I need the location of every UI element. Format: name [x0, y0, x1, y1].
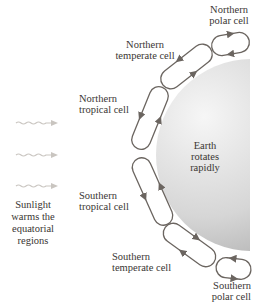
label-line: Northern — [110, 39, 180, 50]
southern-tropical-cell-label: Southern tropical cell — [79, 190, 129, 212]
northern-polar-cell-loop — [210, 31, 251, 57]
sunlight-arrow-icon — [16, 154, 52, 156]
sunlight-arrow-icon — [16, 122, 52, 124]
label-line: tropical cell — [79, 201, 129, 212]
southern-polar-cell-loop — [215, 257, 252, 281]
label-line: Southern — [112, 251, 171, 262]
label-line: Sunlight — [2, 199, 64, 211]
label-line: rotates — [180, 151, 230, 162]
northern-temperate-cell-label: Northern temperate cell — [110, 39, 180, 61]
circulation-diagram: Northern polar cell Northern temperate c… — [0, 0, 262, 306]
label-line: Southern — [198, 280, 251, 291]
northern-polar-cell-label: Northern polar cell — [205, 4, 253, 26]
label-line: polar cell — [198, 291, 251, 302]
label-line: warms the — [2, 211, 64, 223]
label-line: Northern — [79, 93, 129, 104]
southern-polar-cell-label: Southern polar cell — [198, 280, 251, 302]
label-line: rapidly — [180, 162, 230, 173]
northern-tropical-cell-label: Northern tropical cell — [79, 93, 129, 115]
label-line: regions — [2, 235, 64, 247]
sunlight-arrow-icon — [16, 185, 52, 187]
label-line: Earth — [180, 140, 230, 151]
label-line: Southern — [79, 190, 129, 201]
earth-label: Earth rotates rapidly — [180, 140, 230, 173]
label-line: temperate cell — [112, 262, 171, 273]
label-line: equatorial — [2, 223, 64, 235]
southern-temperate-cell-label: Southern temperate cell — [112, 251, 171, 273]
label-line: tropical cell — [79, 104, 129, 115]
label-line: polar cell — [205, 15, 253, 26]
sunlight-label: Sunlight warms the equatorial regions — [2, 199, 64, 247]
label-line: temperate cell — [110, 50, 180, 61]
label-line: Northern — [205, 4, 253, 15]
sunlight-arrows — [16, 122, 52, 187]
